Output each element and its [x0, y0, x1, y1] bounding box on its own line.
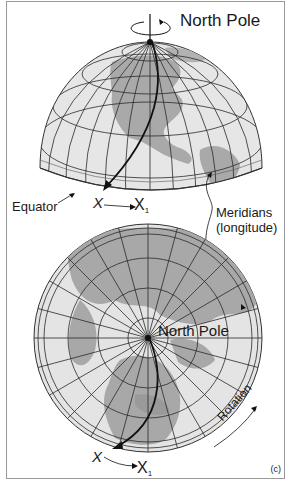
meridians-label: Meridians(longitude) — [216, 205, 277, 235]
north-pole-label-bottom: North Pole — [158, 323, 229, 338]
equator-label: Equator — [12, 200, 58, 213]
x-point-label-top: X — [93, 195, 103, 210]
globe-illustration — [0, 0, 293, 484]
x-point-label-bottom: X — [92, 449, 102, 464]
north-pole-label-top: North Pole — [180, 12, 260, 29]
x1-point-label-bottom: X1 — [137, 460, 152, 478]
polar-globe — [34, 222, 262, 469]
x1-point-label-top: X1 — [134, 197, 149, 215]
panel-label: (c) — [271, 465, 282, 474]
